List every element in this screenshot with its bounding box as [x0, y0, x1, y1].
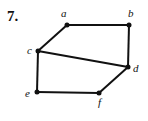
edge-b-d [128, 25, 129, 67]
edge-e-f [37, 92, 99, 93]
edge-a-c [38, 25, 67, 51]
vertex-a [65, 23, 70, 28]
vertex-d [126, 65, 131, 70]
graph-diagram: abcdef [0, 0, 148, 121]
vertex-label-c: c [27, 44, 32, 56]
edge-c-d [38, 51, 128, 67]
vertex-label-d: d [133, 62, 139, 74]
edge-f-d [99, 67, 128, 93]
vertex-f [97, 91, 102, 96]
edge-c-e [37, 51, 38, 92]
vertex-label-b: b [128, 7, 134, 19]
vertex-e [35, 90, 40, 95]
vertex-label-a: a [61, 7, 67, 19]
vertex-b [127, 23, 132, 28]
vertex-label-f: f [98, 96, 103, 108]
vertex-c [36, 49, 41, 54]
vertex-label-e: e [25, 87, 30, 99]
